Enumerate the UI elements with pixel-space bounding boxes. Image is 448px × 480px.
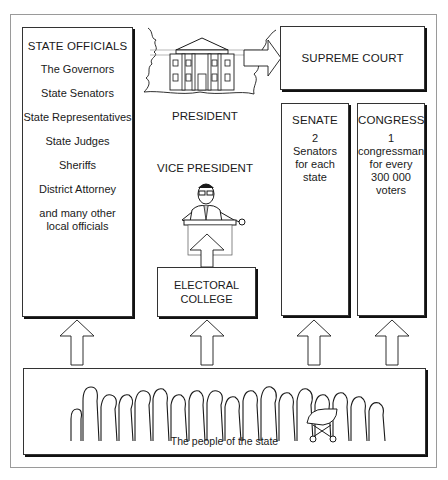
arrow-right-icon	[244, 40, 282, 76]
senate-box: SENATE 2 Senators for each state	[281, 103, 349, 316]
official-item: State Judges	[23, 135, 132, 148]
senate-title: SENATE	[282, 114, 348, 126]
people-box: The people of the state	[23, 368, 426, 455]
official-item: and many other local officials	[23, 207, 132, 233]
vice-president-label: VICE PRESIDENT	[145, 162, 265, 174]
congress-box: CONGRESS 1 congressman for every 300 000…	[357, 103, 425, 316]
supreme-court-label: SUPREME COURT	[301, 52, 403, 64]
people-label: The people of the state	[24, 435, 425, 447]
supreme-court-box: SUPREME COURT	[280, 26, 425, 90]
arrow-up-icon	[190, 320, 224, 366]
arrow-up-icon	[60, 320, 94, 366]
crowd-silhouette-icon	[69, 379, 394, 441]
electoral-college-box: ELECTORAL COLLEGE	[157, 267, 256, 317]
official-item: District Attorney	[23, 183, 132, 196]
arrow-up-icon	[190, 234, 224, 268]
official-item: The Governors	[23, 63, 132, 76]
official-item: Sheriffs	[23, 159, 132, 172]
arrow-up-icon	[375, 320, 409, 366]
president-label: PRESIDENT	[150, 110, 260, 122]
arrow-up-icon	[297, 320, 331, 366]
state-officials-box: STATE OFFICIALS The Governors State Sena…	[22, 27, 133, 317]
electoral-college-label: ELECTORAL COLLEGE	[174, 278, 239, 306]
congress-title: CONGRESS	[358, 114, 424, 126]
official-item: State Senators	[23, 87, 132, 100]
congress-description: 1 congressman for every 300 000 voters	[358, 132, 424, 197]
senate-description: 2 Senators for each state	[282, 132, 348, 184]
state-officials-title: STATE OFFICIALS	[23, 40, 132, 52]
official-item: State Representatives	[17, 111, 138, 124]
